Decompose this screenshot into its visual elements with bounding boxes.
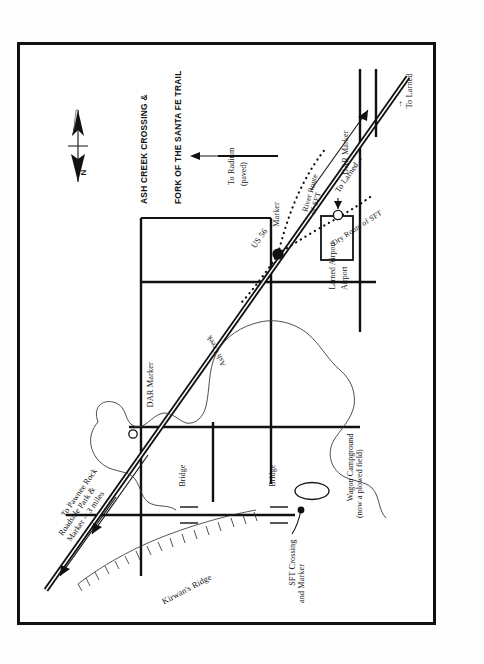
paved-text: (paved) [239,162,248,186]
map-title-line-1: ASH CREEK CROSSING & [139,70,150,204]
label-bridge-north: Bridge [170,465,196,503]
label-airport: Airport [332,266,358,306]
label-dar-marker-north: DAR Marker [137,362,165,425]
label-trail-fork-marker: Marker [263,202,291,244]
bridge-north-text: Bridge [178,465,187,487]
to-larned-bottom-arrow: → [395,100,404,108]
kirwans-ridge-hachure [78,510,257,591]
map-page: Kirwan's Ridge To Pawnee Rock Roadside P… [0,0,484,664]
dar-marker-south-text: DAR Marker [341,130,350,174]
wagon-campground-outline [295,483,329,500]
wagon-campground-text: Wagon Campground (now a plowed field) [346,434,364,519]
sft-crossing-leader [292,510,301,534]
label-sft-crossing: SFT Crossing and Marker [279,539,316,603]
map-title: ASH CREEK CROSSING & FORK OF THE SANTA F… [116,70,207,204]
label-dar-marker-south: DAR Marker [332,130,360,192]
ash-creek-text: Ash Creek [204,334,227,368]
dar-marker-north-text: DAR Marker [146,362,155,407]
map-title-line-2: FORK OF THE SANTA FE TRAIL [173,70,184,204]
label-wagon-campground: Wagon Campground (now a plowed field) [338,434,374,519]
map-border-frame: Kirwan's Ridge To Pawnee Rock Roadside P… [17,42,436,625]
label-paved: (paved) [231,162,257,202]
bridge-south-text: Bridge [268,465,277,487]
to-larned-bottom-text: To Larned [405,73,414,108]
label-to-larned-bottom: → To Larned [386,73,424,126]
rotated-map-canvas: Kirwan's Ridge To Pawnee Rock Roadside P… [20,45,433,622]
label-bridge-south: Bridge [260,465,286,503]
label-compass-north: N [71,170,98,194]
compass-north-text: N [79,170,88,176]
sft-crossing-text: SFT Crossing and Marker [288,539,306,603]
airport-text: Airport [340,266,349,290]
river-route-text: River Route of SFT [300,173,323,215]
trail-fork-marker-text: Marker [272,202,281,227]
dar-marker-north-symbol [129,430,137,438]
